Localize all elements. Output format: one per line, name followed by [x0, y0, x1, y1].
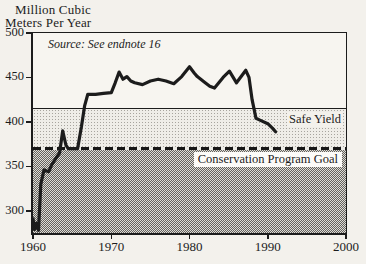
x-tick-label: 1980 [166, 240, 214, 254]
x-tick-label: 1990 [244, 240, 292, 254]
source-note: Source: See endnote 16 [48, 37, 161, 52]
conservation-goal-label: Conservation Program Goal [194, 152, 342, 167]
y-tick-label: 350 [0, 158, 24, 173]
y-tick-label: 450 [0, 69, 24, 84]
x-tick-label: 2000 [322, 240, 366, 254]
y-tick-label: 400 [0, 114, 24, 129]
x-tick-label: 1960 [9, 240, 57, 254]
water-use-line [33, 67, 276, 231]
y-tick-mark [26, 166, 31, 168]
y-tick-mark [26, 210, 31, 212]
y-tick-label: 500 [0, 25, 24, 40]
plot-area: Source: See endnote 16 Safe Yield Conser… [31, 32, 347, 235]
water-use-line-chart [33, 33, 346, 233]
y-tick-mark [26, 77, 31, 79]
y-tick-label: 300 [0, 203, 24, 218]
y-tick-mark [26, 121, 31, 123]
chart-figure: Million Cubic Meters Per Year Source: Se… [0, 0, 366, 264]
y-tick-mark [26, 32, 31, 34]
safe-yield-label: Safe Yield [287, 112, 343, 127]
x-tick-label: 1970 [87, 240, 135, 254]
